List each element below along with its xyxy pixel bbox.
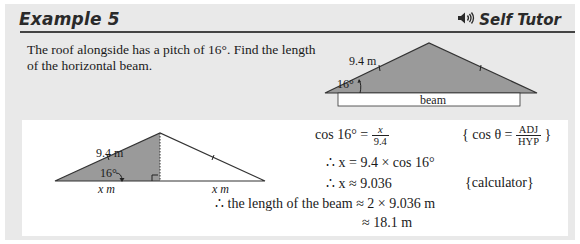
eq1-lhs: cos 16° =: [315, 127, 368, 142]
beam-label: beam: [420, 93, 446, 108]
reason-fraction: ADJ HYP: [516, 124, 541, 147]
roof-side-label: 9.4 m: [349, 54, 376, 69]
left-base-label: x m: [98, 182, 115, 197]
question-text: The roof alongside has a pitch of 16°. F…: [27, 42, 317, 74]
reason-denominator: HYP: [516, 136, 541, 147]
angle-label: 16°: [100, 166, 117, 181]
equation-line-3: ∴ x ≈ 9.036: [326, 175, 392, 192]
header-rule: [20, 31, 575, 33]
self-tutor-button[interactable]: Self Tutor: [457, 11, 561, 29]
roof-angle-label: 16°: [337, 77, 354, 92]
example-title: Example 5: [19, 9, 120, 29]
reason-prefix: { cos θ =: [462, 127, 512, 142]
roof-diagram: 9.4 m 16° beam: [323, 40, 543, 116]
reason-numerator: ADJ: [516, 124, 541, 136]
hyp-label: 9.4 m: [96, 146, 123, 161]
example-panel: Example 5 Self Tutor The roof alongside …: [5, 4, 575, 240]
equation-line-3-reason: {calculator}: [465, 175, 534, 191]
equation-line-5: ≈ 18.1 m: [362, 215, 412, 231]
solution-box: 9.4 m 16° x m x m cos 16° = x 9.4 { cos …: [22, 120, 568, 236]
equation-line-1: cos 16° = x 9.4: [315, 124, 389, 147]
equation-line-2: ∴ x = 9.4 × cos 16°: [326, 154, 435, 171]
speaker-icon: [457, 11, 475, 29]
equation-line-4: ∴ the length of the beam ≈ 2 × 9.036 m: [215, 195, 435, 212]
self-tutor-label: Self Tutor: [479, 11, 561, 29]
reason-suffix: }: [545, 127, 552, 142]
equation-line-1-reason: { cos θ = ADJ HYP }: [462, 124, 551, 147]
eq1-fraction: x 9.4: [372, 124, 389, 147]
eq1-numerator: x: [372, 124, 389, 136]
eq1-denominator: 9.4: [372, 136, 389, 147]
